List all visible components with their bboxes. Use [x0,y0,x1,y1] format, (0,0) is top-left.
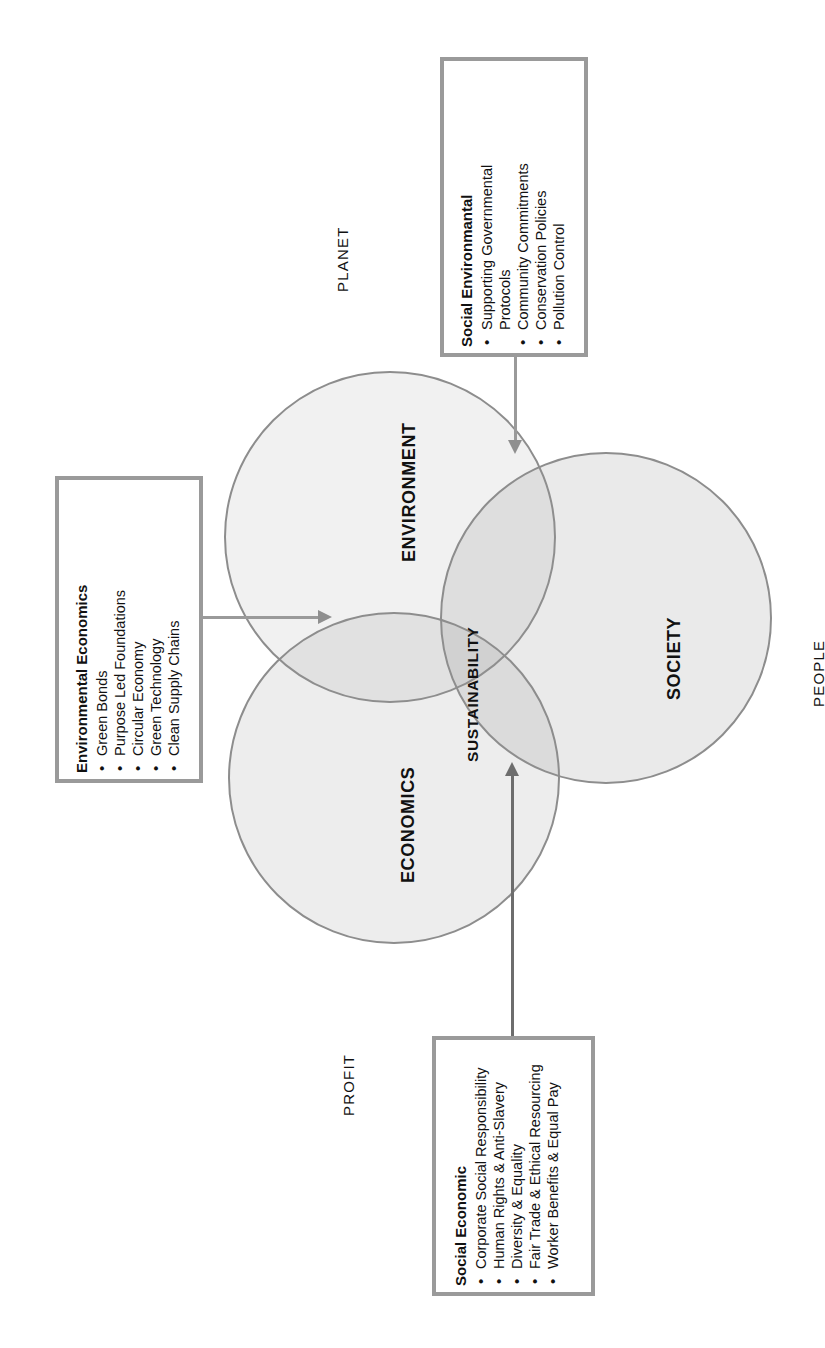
callout-box-social-economic: Social Economic Corporate Social Respons… [432,1036,595,1296]
connector-line-environmental-economics [203,616,321,619]
list-item: Conservation Policies [533,163,551,347]
label-sustainability: SUSTAINABILITY [464,626,482,762]
callout-box-social-environmental: Social Environmantal Supporting Governme… [440,57,588,357]
list-item: Fair Trade & Ethical Resourcing [527,1064,545,1286]
list-item: Purpose Led Foundations [112,585,130,773]
label-profit: PROFIT [340,1054,357,1116]
label-society: SOCIETY [664,617,685,700]
list-item: Pollution Control [551,163,569,347]
callout-title-social-economic: Social Economic [452,1064,470,1286]
list-item: Green Bonds [94,585,112,773]
arrowhead-icon-social-environmental [508,440,522,454]
callout-title-social-environmental: Social Environmantal [458,163,476,347]
list-item: Protocols [497,163,515,347]
label-planet: PLANET [334,226,351,292]
label-environment: ENVIRONMENT [399,422,420,562]
list-item: Circular Economy [130,585,148,773]
list-item: Green Technology [148,585,166,773]
label-people: PEOPLE [810,640,825,707]
connector-line-social-economic [511,772,514,1036]
callout-list-social-environmental: Supporting Governmental Protocols Commun… [479,163,568,347]
callout-list-social-economic: Corporate Social Responsibility Human Ri… [473,1064,562,1286]
label-economics: ECONOMICS [398,767,419,883]
list-item: Worker Benefits & Equal Pay [545,1064,563,1286]
list-item: Corporate Social Responsibility [473,1064,491,1286]
list-item: Community Commitments [515,163,533,347]
list-item: Clean Supply Chains [166,585,184,773]
arrowhead-icon-social-economic [505,762,519,776]
callout-box-environmental-economics: Environmental Economics Green Bonds Purp… [55,476,203,783]
list-item: Supporting Governmental [479,163,497,347]
callout-title-environmental-economics: Environmental Economics [73,585,91,773]
list-item: Diversity & Equality [509,1064,527,1286]
callout-list-environmental-economics: Green Bonds Purpose Led Foundations Circ… [94,585,183,773]
arrowhead-icon-environmental-economics [318,610,332,624]
diagram-canvas: ENVIRONMENT SOCIETY ECONOMICS SUSTAINABI… [0,0,825,1348]
list-item: Human Rights & Anti-Slavery [491,1064,509,1286]
connector-line-social-environmental [514,357,517,443]
